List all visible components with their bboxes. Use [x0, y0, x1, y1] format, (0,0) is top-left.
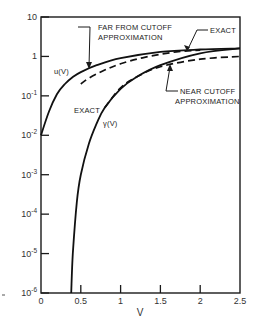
x-axis-ticks: 00.511.522.5 [38, 285, 246, 306]
annotation-exact-top: EXACT [210, 26, 236, 35]
annotation-exact-mid: EXACT [74, 106, 100, 115]
curve-label-u: u(V) [54, 67, 69, 76]
annotation-far-line2: APPROXIMATION [98, 33, 163, 42]
series-group [41, 48, 240, 293]
curve-label-gamma: γ(V) [103, 119, 118, 128]
annotation-near-line2: APPROXIMATION [175, 97, 240, 106]
x-tick-label: 0.5 [75, 296, 88, 306]
y-tick-label: 10-6 [21, 286, 37, 298]
x-tick-label: 2 [198, 296, 203, 306]
y-tick-label: 10-4 [21, 207, 37, 219]
x-tick-label: 2.5 [234, 296, 247, 306]
annotation-far-line1: FAR FROM CUTOFF [98, 23, 172, 32]
x-axis-title: V [137, 307, 144, 318]
x-tick-label: 1.5 [154, 296, 167, 306]
y-tick-label: 10-2 [21, 128, 37, 140]
annotation-near-line1: NEAR CUTOFF [180, 87, 236, 96]
y-axis-ticks: 10110-110-210-310-410-510-6 [21, 12, 49, 298]
chart: 10110-110-210-310-410-510-6 00.511.522.5… [0, 0, 254, 324]
y-tick-label: 10-5 [21, 247, 37, 259]
y-tick-label: 1 [32, 51, 37, 61]
x-tick-label: 1 [118, 296, 123, 306]
y-tick-label: 10-3 [21, 168, 37, 180]
series-line [71, 48, 240, 293]
y-tick-label: 10-1 [21, 89, 37, 101]
x-tick-label: 0 [38, 296, 43, 306]
y-tick-label: 10 [27, 12, 37, 22]
